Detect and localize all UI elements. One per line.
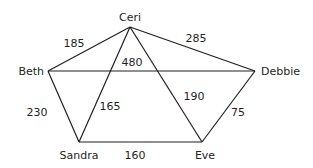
edge-weight-ceri-debbie: 285 xyxy=(186,32,207,45)
node-label-debbie: Debbie xyxy=(261,65,300,78)
edge-weight-beth-sandra: 230 xyxy=(27,106,48,119)
edge-weight-sandra-eve: 160 xyxy=(125,149,146,162)
node-label-eve: Eve xyxy=(195,149,215,162)
edge-ceri-sandra xyxy=(79,27,130,142)
node-label-beth: Beth xyxy=(18,65,44,78)
edge-weight-ceri-beth: 185 xyxy=(64,37,85,50)
edge-debbie-eve xyxy=(202,71,255,142)
edge-weight-beth-debbie: 480 xyxy=(122,56,143,69)
node-label-ceri: Ceri xyxy=(119,11,141,24)
edge-ceri-beth xyxy=(48,27,130,71)
edge-weight-ceri-sandra: 165 xyxy=(100,100,121,113)
node-label-sandra: Sandra xyxy=(60,149,99,162)
edge-beth-sandra xyxy=(48,71,79,142)
edge-weight-debbie-eve: 75 xyxy=(231,106,245,119)
weighted-graph-diagram: 18528548016519023075160 CeriBethDebbieSa… xyxy=(0,0,313,168)
edge-weight-ceri-eve: 190 xyxy=(184,90,205,103)
node-labels-layer: CeriBethDebbieSandraEve xyxy=(18,11,300,162)
